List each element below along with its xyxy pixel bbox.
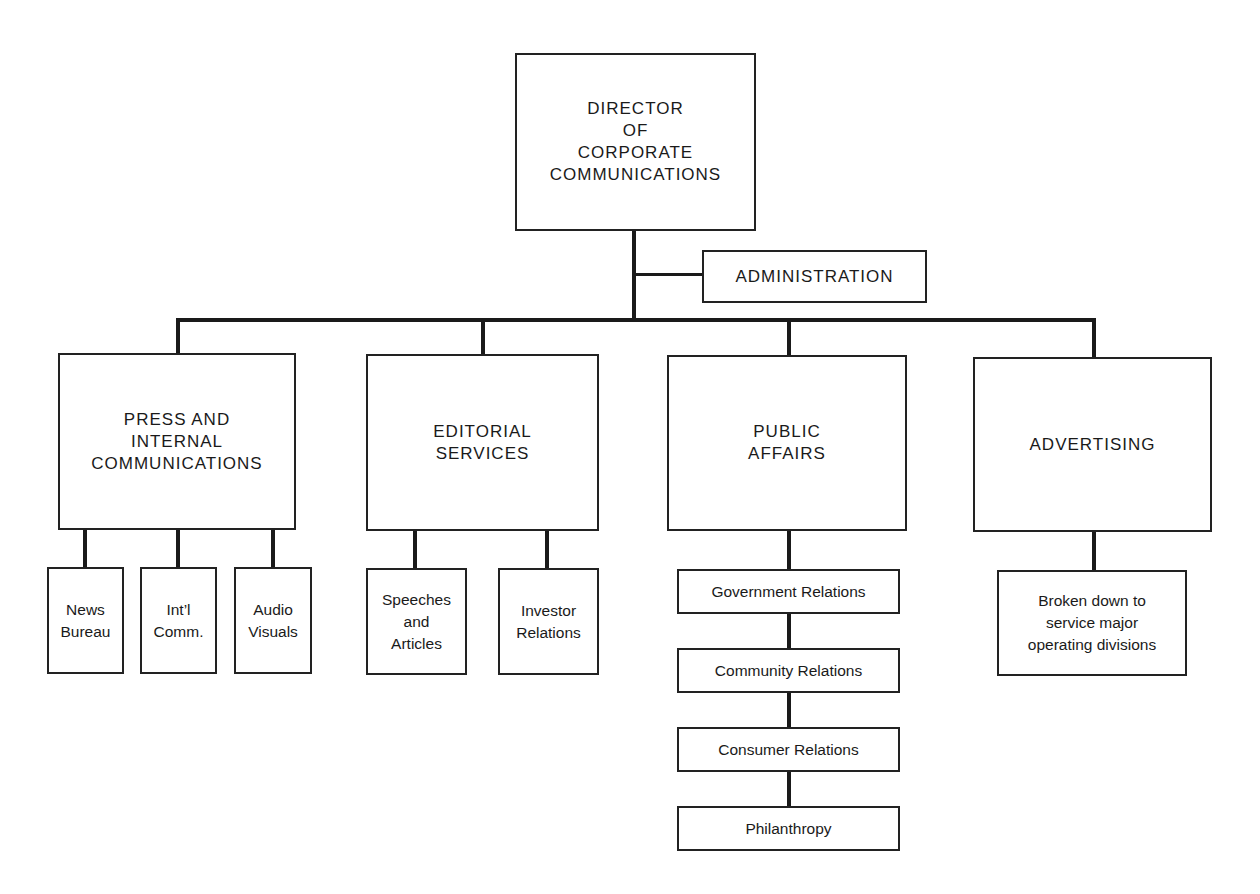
- consumer-relations-box[interactable]: Consumer Relations: [677, 727, 900, 772]
- news-bureau-label: News Bureau: [61, 599, 111, 643]
- admin-connector: [634, 273, 702, 276]
- advertising-label: ADVERTISING: [1030, 434, 1156, 456]
- advertising-connector: [1092, 531, 1096, 570]
- investor-connector: [545, 530, 549, 568]
- investor-relations-box[interactable]: Investor Relations: [498, 568, 599, 675]
- public-affairs-label: PUBLIC AFFAIRS: [748, 421, 826, 465]
- audio-visuals-label: Audio Visuals: [248, 599, 298, 643]
- intl-comm-label: Int’l Comm.: [154, 599, 204, 643]
- government-relations-box[interactable]: Government Relations: [677, 569, 900, 614]
- speeches-label: Speeches and Articles: [382, 589, 451, 655]
- government-relations-label: Government Relations: [711, 581, 865, 603]
- consumer-relations-label: Consumer Relations: [718, 739, 858, 761]
- news-bureau-box[interactable]: News Bureau: [47, 567, 124, 674]
- audio-visuals-box[interactable]: Audio Visuals: [234, 567, 312, 674]
- department-bus: [176, 318, 1096, 322]
- advertising-box[interactable]: ADVERTISING: [973, 357, 1212, 532]
- director-label: DIRECTOR OF CORPORATE COMMUNICATIONS: [550, 98, 721, 186]
- director-box[interactable]: DIRECTOR OF CORPORATE COMMUNICATIONS: [515, 53, 756, 231]
- audio-connector: [271, 529, 275, 567]
- press-box[interactable]: PRESS AND INTERNAL COMMUNICATIONS: [58, 353, 296, 530]
- intl-comm-box[interactable]: Int’l Comm.: [140, 567, 217, 674]
- public-affairs-drop: [787, 318, 791, 355]
- editorial-drop: [481, 318, 485, 354]
- investor-relations-label: Investor Relations: [516, 600, 581, 644]
- administration-box[interactable]: ADMINISTRATION: [702, 250, 927, 303]
- administration-label: ADMINISTRATION: [735, 266, 893, 288]
- philanthropy-box[interactable]: Philanthropy: [677, 806, 900, 851]
- intl-connector: [176, 529, 180, 567]
- press-drop: [176, 318, 180, 354]
- community-relations-label: Community Relations: [715, 660, 862, 682]
- operating-divisions-label: Broken down to service major operating d…: [1028, 590, 1156, 656]
- advertising-drop: [1092, 318, 1096, 357]
- operating-divisions-box[interactable]: Broken down to service major operating d…: [997, 570, 1187, 676]
- public-affairs-box[interactable]: PUBLIC AFFAIRS: [667, 355, 907, 531]
- philanthropy-label: Philanthropy: [745, 818, 831, 840]
- press-label: PRESS AND INTERNAL COMMUNICATIONS: [91, 409, 262, 475]
- speeches-box[interactable]: Speeches and Articles: [366, 568, 467, 675]
- editorial-label: EDITORIAL SERVICES: [433, 421, 531, 465]
- speeches-connector: [413, 530, 417, 568]
- editorial-box[interactable]: EDITORIAL SERVICES: [366, 354, 599, 531]
- community-relations-box[interactable]: Community Relations: [677, 648, 900, 693]
- news-connector: [83, 529, 87, 567]
